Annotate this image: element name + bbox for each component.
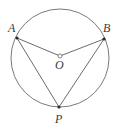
point-a-marker xyxy=(15,36,18,39)
segment-ob xyxy=(60,39,104,56)
point-b-label: B xyxy=(103,22,110,34)
segment-ap xyxy=(17,38,59,107)
point-p-marker xyxy=(57,105,60,108)
segment-oa xyxy=(17,38,60,56)
point-b-marker xyxy=(102,37,105,40)
point-p-label: P xyxy=(55,113,62,125)
point-a-label: A xyxy=(8,22,15,34)
geometry-figure: A B O P xyxy=(0,0,122,129)
point-o-label: O xyxy=(55,59,64,71)
segment-bp xyxy=(59,39,104,107)
